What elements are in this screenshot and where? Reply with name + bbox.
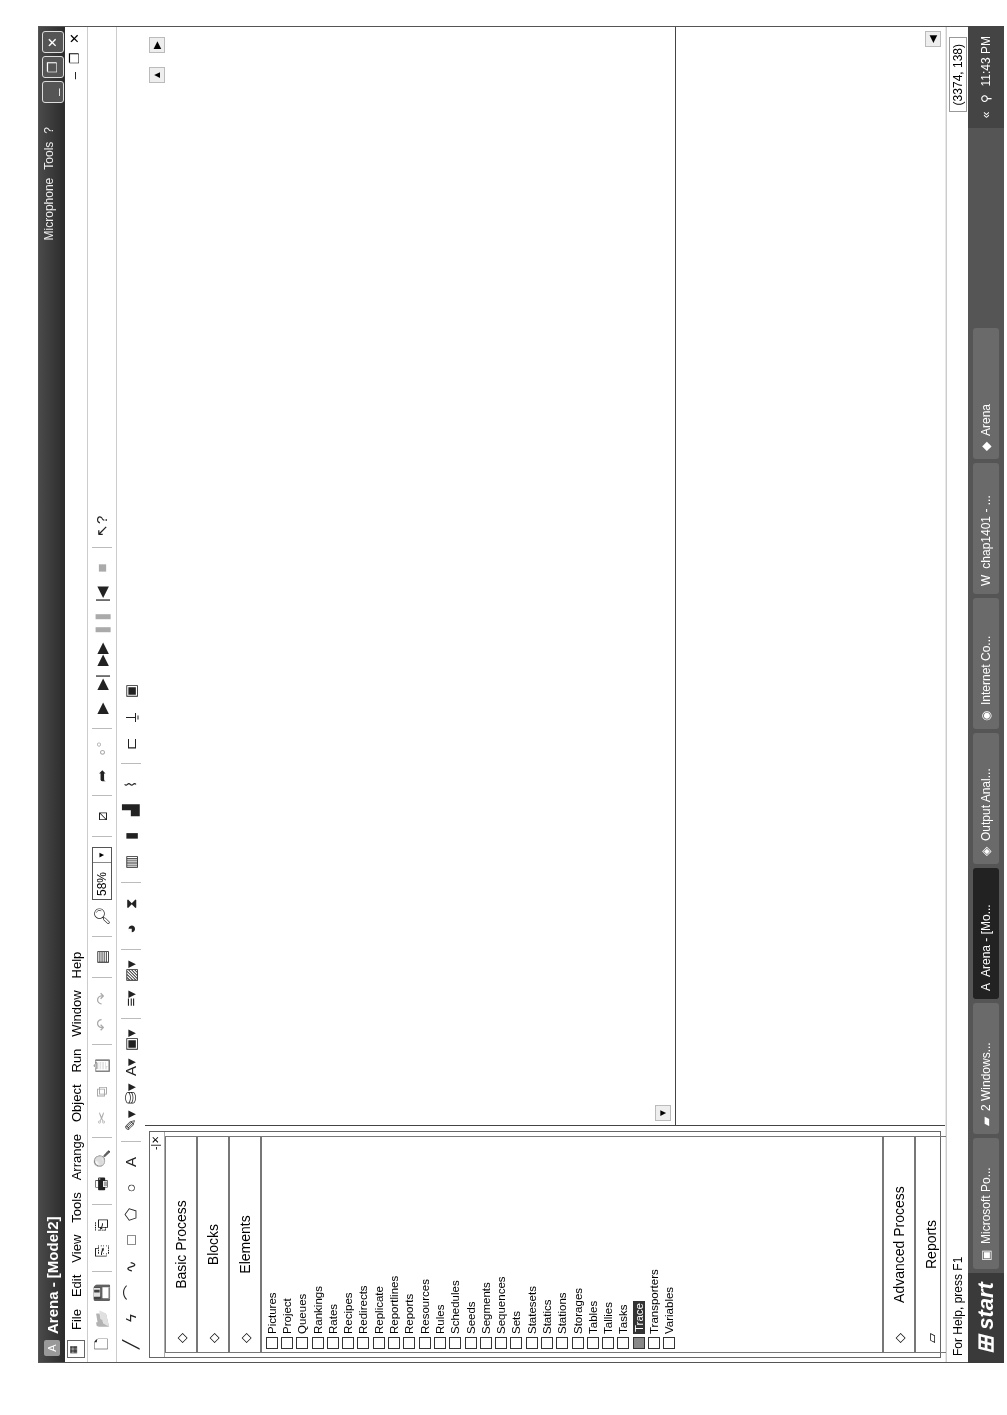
start-button[interactable]: ⊞start — [968, 1273, 1004, 1363]
text-color-icon[interactable]: A▾ — [120, 1057, 142, 1077]
task-chap1401-word[interactable]: Wchap1401 - ... — [973, 463, 999, 594]
help-pointer-icon[interactable]: ↖? — [91, 516, 113, 537]
task-microsoft-powerpoint[interactable]: ▣Microsoft Po... — [973, 1138, 999, 1269]
clock[interactable]: 11:43 PM — [979, 36, 993, 86]
open-icon[interactable]: 📂 — [91, 1308, 113, 1328]
element-item[interactable]: Replicate — [371, 1137, 386, 1352]
menu-file[interactable]: File — [69, 1303, 84, 1336]
line-icon[interactable]: ╱ — [120, 1334, 142, 1354]
attach-icon[interactable]: ⎘ — [91, 1241, 113, 1261]
element-item[interactable]: Resources — [417, 1137, 432, 1352]
element-item[interactable]: Statics — [539, 1137, 554, 1352]
redo-icon[interactable]: ↷ — [91, 988, 113, 1008]
clock-icon[interactable]: ◕ — [120, 919, 142, 939]
polyline-icon[interactable]: ϟ — [120, 1308, 142, 1328]
resource-icon[interactable]: ⍊ — [120, 707, 142, 727]
panel-blocks[interactable]: ◇Blocks — [197, 1136, 229, 1353]
element-item[interactable]: Schedules — [448, 1137, 463, 1352]
element-item[interactable]: Tasks — [616, 1137, 631, 1352]
microphone-button[interactable]: Microphone — [42, 178, 56, 241]
connect-icon[interactable]: ➦ — [91, 765, 113, 785]
close-button[interactable]: ✕ — [42, 31, 64, 53]
line-color-icon[interactable]: ✎▾ — [120, 1110, 142, 1131]
task-arena[interactable]: ◆Arena — [973, 328, 999, 459]
tools-button[interactable]: Tools — [42, 142, 56, 170]
task-output-analyzer[interactable]: ◈Output Anal... — [973, 733, 999, 864]
element-item[interactable]: Reports — [402, 1137, 417, 1352]
flowchart-view[interactable]: ▼ — [145, 27, 676, 1125]
scroll-up-arrow[interactable]: ▲ — [149, 67, 165, 83]
minimize-button[interactable]: _ — [42, 81, 64, 103]
print-preview-icon[interactable]: 🔍 — [91, 1148, 113, 1168]
element-item[interactable]: Segments — [478, 1137, 493, 1352]
mdi-close-button[interactable]: ✕ — [67, 33, 82, 44]
cut-icon[interactable]: ✂ — [91, 1107, 113, 1127]
menu-object[interactable]: Object — [69, 1079, 84, 1129]
element-item[interactable]: Project — [279, 1137, 294, 1352]
level-icon[interactable]: ▮ — [120, 826, 142, 846]
zoom-select[interactable]: 58%▼ — [92, 847, 112, 900]
element-item[interactable]: Sets — [509, 1137, 524, 1352]
task-internet-connection[interactable]: ◉Internet Co... — [973, 598, 999, 729]
element-item[interactable]: Trace — [631, 1137, 646, 1352]
help-icon[interactable]: ? — [42, 127, 56, 134]
element-item[interactable]: Tallies — [601, 1137, 616, 1352]
element-item[interactable]: Rules — [432, 1137, 447, 1352]
end-icon[interactable]: ■ — [91, 558, 113, 578]
chevron-down-icon[interactable]: ▼ — [93, 848, 111, 863]
print-icon[interactable]: 🖶 — [91, 1174, 113, 1194]
animate-connector-icon[interactable]: ∘° — [91, 739, 113, 759]
start-over-icon[interactable]: |◀ — [91, 584, 113, 604]
scroll-down-arrow[interactable]: ▼ — [655, 1105, 671, 1121]
tray-expand-icon[interactable]: « — [979, 111, 993, 118]
menu-window[interactable]: Window — [69, 984, 84, 1042]
element-item[interactable]: Rankings — [310, 1137, 325, 1352]
element-item[interactable]: Pictures — [264, 1137, 279, 1352]
layers-icon[interactable]: ▤ — [91, 947, 113, 967]
element-item[interactable]: Rates — [325, 1137, 340, 1352]
mdi-restore-button[interactable]: ❐ — [67, 52, 82, 64]
element-item[interactable]: Recipes — [340, 1137, 355, 1352]
element-item[interactable]: Storages — [570, 1137, 585, 1352]
menu-tools[interactable]: Tools — [69, 1186, 84, 1228]
menu-edit[interactable]: Edit — [69, 1269, 84, 1303]
undo-icon[interactable]: ↶ — [91, 1014, 113, 1034]
title-bar[interactable]: A Arena - [Model2] Microphone Tools ? _ … — [39, 27, 65, 1362]
model-document-icon[interactable]: ▦ — [67, 1340, 85, 1358]
menu-arrange[interactable]: Arrange — [69, 1128, 84, 1186]
step-icon[interactable]: ▶| — [91, 672, 113, 692]
task-windows-explorer[interactable]: ▰2 Windows... — [973, 1003, 999, 1134]
panel-basic-process[interactable]: ◇Basic Process — [165, 1136, 197, 1353]
split-screen-icon[interactable]: ⧄ — [91, 806, 113, 826]
fast-forward-icon[interactable]: ▶▶ — [91, 642, 113, 666]
element-item[interactable]: Tables — [585, 1137, 600, 1352]
element-item[interactable]: Redirects — [356, 1137, 371, 1352]
zoom-icon[interactable]: 🔎︎ — [91, 906, 113, 926]
save-icon[interactable]: 💾 — [91, 1282, 113, 1302]
line-style-icon[interactable]: ≡▾ — [120, 988, 142, 1008]
menu-view[interactable]: View — [69, 1229, 84, 1269]
panel-reports[interactable]: ▱Reports — [915, 1136, 947, 1353]
element-item[interactable]: Stations — [555, 1137, 570, 1352]
element-item[interactable]: Sequences — [493, 1137, 508, 1352]
element-item[interactable]: Queues — [295, 1137, 310, 1352]
plot-icon[interactable]: ⌇ — [120, 774, 142, 794]
restore-button[interactable]: ❐ — [42, 56, 64, 78]
paste-icon[interactable]: 📋 — [91, 1055, 113, 1075]
window-bg-color-icon[interactable]: ▣▾ — [120, 1029, 142, 1051]
new-icon[interactable]: 🗋 — [91, 1334, 113, 1354]
variable-icon[interactable]: ▥ — [120, 852, 142, 872]
queue-icon[interactable]: ⊏ — [120, 733, 142, 753]
date-icon[interactable]: ⧗ — [120, 893, 142, 913]
bezier-icon[interactable]: ∿ — [120, 1256, 142, 1276]
polygon-icon[interactable]: ⬠ — [120, 1204, 142, 1224]
ellipse-icon[interactable]: ○ — [120, 1178, 142, 1198]
close-icon[interactable]: -|✕ — [150, 1136, 161, 1150]
element-item[interactable]: Transporters — [646, 1137, 661, 1352]
box-icon[interactable]: □ — [120, 1230, 142, 1250]
scroll-right-arrow[interactable]: ▶ — [149, 37, 165, 53]
global-icon[interactable]: ▣ — [120, 681, 142, 701]
histogram-icon[interactable]: ▟ — [120, 800, 142, 820]
element-item[interactable]: Variables — [662, 1137, 677, 1352]
panel-elements[interactable]: ◇Elements — [229, 1136, 261, 1353]
